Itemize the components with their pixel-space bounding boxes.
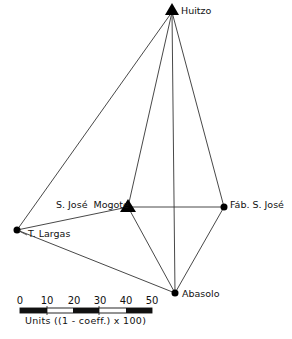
scale-segment-20-30 xyxy=(73,308,99,313)
scale-segment-0-10 xyxy=(20,308,47,313)
node-fabsjose-dot-icon xyxy=(221,204,228,211)
edge-huitzo-sjmogote xyxy=(128,12,172,207)
scale-tick-30: 30 xyxy=(94,295,107,306)
edge-tlargas-sjmogote xyxy=(17,207,128,230)
label-tlargas: T. Largas xyxy=(27,228,70,239)
edge-huitzo-tlargas xyxy=(17,12,172,230)
scale-tick-20: 20 xyxy=(68,295,81,306)
edge-fabsjose-abasolo xyxy=(175,207,224,293)
label-fabsjose: Fáb. S. José xyxy=(230,199,284,210)
edges xyxy=(17,12,224,293)
label-huitzo: Huitzo xyxy=(181,5,212,16)
scale-tick-0: 0 xyxy=(17,295,23,306)
scale-units-label: Units ((1 - coeff.) x 100) xyxy=(25,315,146,326)
nodes xyxy=(14,3,228,297)
label-sjmogote: S. José Mogote xyxy=(56,199,129,210)
scale-segment-40-50 xyxy=(126,308,152,313)
edge-huitzo-abasolo xyxy=(172,12,175,293)
node-huitzo-triangle-icon xyxy=(165,3,179,15)
edge-huitzo-fabsjose xyxy=(172,12,224,207)
node-abasolo-dot-icon xyxy=(172,290,179,297)
label-abasolo: Abasolo xyxy=(182,288,220,299)
scale-tick-10: 10 xyxy=(41,295,54,306)
scale-tick-50: 50 xyxy=(146,295,159,306)
edge-tlargas-abasolo xyxy=(17,230,175,293)
tlargas-leader-line xyxy=(19,231,27,235)
scale-bar: 0 10 20 30 40 50 Units ((1 - coeff.) x 1… xyxy=(17,295,159,326)
node-tlargas-dot-icon xyxy=(14,227,21,234)
edge-sjmogote-abasolo xyxy=(128,207,175,293)
scale-tick-40: 40 xyxy=(120,295,133,306)
dendrogram-network-diagram: Huitzo S. José Mogote Fáb. S. José T. La… xyxy=(0,0,292,339)
